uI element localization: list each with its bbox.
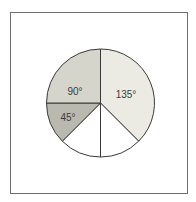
label-90: 90° xyxy=(67,86,82,97)
pie-chart: 90° 45° 135° xyxy=(0,0,196,202)
label-135: 135° xyxy=(116,89,137,100)
label-45: 45° xyxy=(60,112,75,123)
